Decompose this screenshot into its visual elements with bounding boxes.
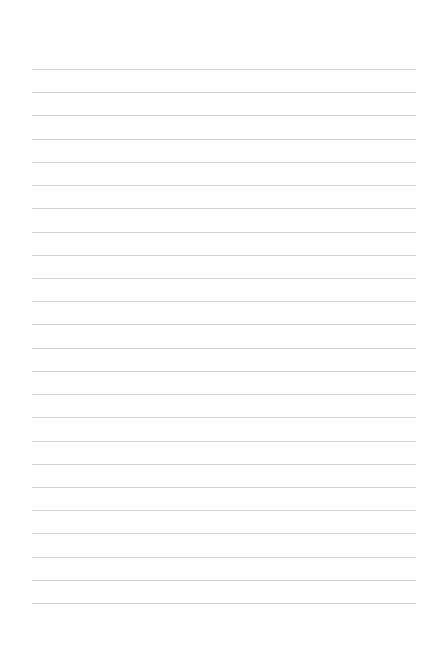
ruled-line <box>32 185 416 186</box>
lined-sheet <box>0 0 441 658</box>
ruled-line <box>32 278 416 279</box>
ruled-line <box>32 371 416 372</box>
ruled-line <box>32 162 416 163</box>
ruled-line <box>32 208 416 209</box>
ruled-line <box>32 487 416 488</box>
ruled-line <box>32 92 416 93</box>
ruled-line <box>32 69 416 70</box>
ruled-line <box>32 394 416 395</box>
ruled-line <box>32 441 416 442</box>
ruled-line <box>32 417 416 418</box>
ruled-line <box>32 510 416 511</box>
ruled-line <box>32 580 416 581</box>
ruled-line <box>32 348 416 349</box>
ruled-line <box>32 232 416 233</box>
ruled-line <box>32 301 416 302</box>
ruled-line <box>32 464 416 465</box>
ruled-line <box>32 115 416 116</box>
ruled-line <box>32 533 416 534</box>
ruled-line <box>32 324 416 325</box>
ruled-line <box>32 603 416 604</box>
ruled-line <box>32 557 416 558</box>
ruled-line <box>32 139 416 140</box>
ruled-line <box>32 255 416 256</box>
